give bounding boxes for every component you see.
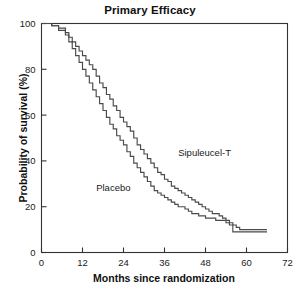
x-tick-label: 72 (282, 257, 293, 268)
x-tick-label: 60 (241, 257, 252, 268)
x-tick-label: 36 (159, 257, 170, 268)
x-tick-label: 12 (77, 257, 88, 268)
y-tick-label: 100 (20, 18, 36, 29)
chart-figure: Primary Efficacy Probability of survival… (0, 0, 300, 290)
axes-frame (42, 24, 288, 253)
survival-curve-placebo (42, 24, 268, 232)
y-tick-label: 0 (30, 247, 35, 258)
series-annotations: Sipuleucel-TPlacebo (96, 147, 231, 192)
survival-curves (42, 24, 268, 232)
y-tick-label: 40 (25, 155, 36, 166)
x-tick-label: 0 (39, 257, 44, 268)
y-tick-label: 80 (25, 64, 36, 75)
y-tick-label: 60 (25, 110, 36, 121)
y-tick-label: 20 (25, 201, 36, 212)
x-tick-label: 24 (118, 257, 129, 268)
series-label-sipuleucel-t: Sipuleucel-T (178, 147, 231, 158)
km-survival-plot: 0122436486072020406080100 Sipuleucel-TPl… (0, 0, 300, 290)
series-label-placebo: Placebo (96, 182, 130, 193)
axis-ticks (42, 24, 288, 253)
x-tick-label: 48 (200, 257, 211, 268)
